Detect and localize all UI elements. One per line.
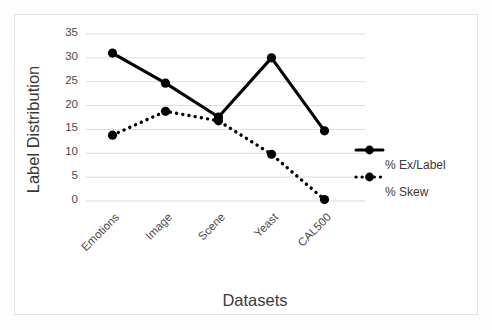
data-point: [320, 195, 329, 204]
legend-item-ex-label: % Ex/Label: [385, 158, 446, 172]
data-series-layer: [108, 48, 329, 204]
data-point: [267, 53, 276, 62]
legend-skew-marker: [365, 173, 374, 182]
data-point: [267, 150, 276, 159]
chart-frame: Label Distribution Datasets 051015202530…: [14, 14, 478, 315]
data-point: [108, 131, 117, 140]
data-point: [214, 116, 223, 125]
data-point: [161, 107, 170, 116]
data-point: [161, 79, 170, 88]
legend-ex-label-marker: [365, 146, 374, 155]
data-point: [320, 126, 329, 135]
legend-marks: [356, 146, 383, 182]
gridlines: [86, 34, 365, 201]
legend-item-skew: % Skew: [385, 185, 428, 199]
data-point: [108, 48, 117, 57]
